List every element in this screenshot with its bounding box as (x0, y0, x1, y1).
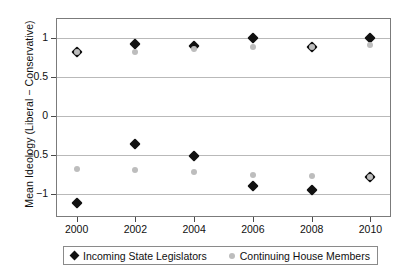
plot-area (56, 18, 391, 217)
data-point (250, 172, 256, 178)
x-tick (135, 217, 136, 222)
data-point (191, 169, 197, 175)
data-point (74, 166, 80, 172)
y-tick-label: 0 (42, 109, 48, 121)
circle-marker-icon (229, 253, 235, 259)
data-point (132, 167, 138, 173)
x-tick (370, 217, 371, 222)
gridline (57, 38, 390, 39)
gridline (57, 194, 390, 195)
y-tick (51, 38, 56, 39)
y-tick-label: 1 (42, 31, 48, 43)
y-tick (51, 77, 56, 78)
y-tick-label: −0.5 (27, 148, 48, 160)
data-point (74, 49, 80, 55)
x-tick (77, 217, 78, 222)
gridline (57, 116, 390, 117)
y-tick-label: −1 (36, 187, 48, 199)
x-tick (312, 217, 313, 222)
data-point (367, 174, 373, 180)
scatter-chart-figure: Mean Ideology (Liberal − Conservative) 1… (0, 0, 420, 274)
legend-label: Incoming State Legislators (83, 250, 207, 262)
y-tick (51, 155, 56, 156)
x-tick-label: 2008 (287, 223, 337, 235)
x-tick-label: 2004 (169, 223, 219, 235)
x-tick-label: 2010 (345, 223, 395, 235)
chart-legend: Incoming State Legislators Continuing Ho… (63, 246, 378, 265)
legend-item-incoming-state-legislators: Incoming State Legislators (71, 250, 207, 262)
legend-label: Continuing House Members (240, 250, 370, 262)
gridline (57, 155, 390, 156)
data-point (132, 49, 138, 55)
y-tick-label: 0.5 (33, 70, 48, 82)
x-tick (194, 217, 195, 222)
data-point (250, 44, 256, 50)
y-tick (51, 116, 56, 117)
data-point (191, 46, 197, 52)
data-point (367, 42, 373, 48)
data-point (309, 173, 315, 179)
x-tick-label: 2002 (110, 223, 160, 235)
gridline (57, 77, 390, 78)
legend-item-continuing-house-members: Continuing House Members (229, 250, 370, 262)
data-point (309, 44, 315, 50)
x-tick-label: 2006 (228, 223, 278, 235)
x-tick-label: 2000 (52, 223, 102, 235)
y-tick (51, 194, 56, 195)
x-tick (253, 217, 254, 222)
y-axis-title: Mean Ideology (Liberal − Conservative) (23, 19, 35, 209)
diamond-marker-icon (70, 251, 80, 261)
